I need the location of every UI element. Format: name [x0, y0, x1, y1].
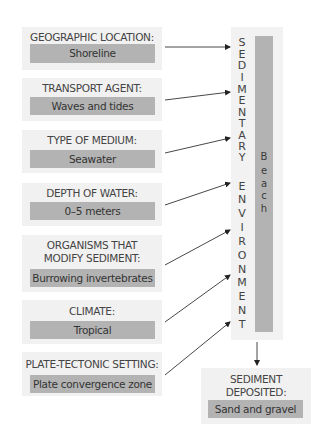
arrow-plate-tectonic — [165, 322, 230, 375]
arrow-type-of-medium — [165, 138, 230, 153]
arrow-depth-of-water — [165, 183, 230, 205]
arrow-organisms — [165, 230, 230, 265]
arrow-climate — [165, 275, 230, 322]
arrows — [0, 0, 321, 440]
arrow-transport-agent — [165, 92, 230, 100]
